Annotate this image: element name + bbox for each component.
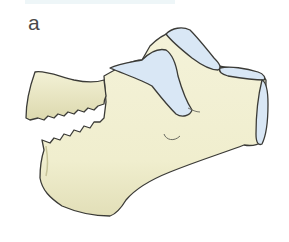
bone-illustration: [0, 0, 289, 242]
bone-process: [26, 72, 106, 120]
figure-panel: a: [0, 0, 289, 242]
